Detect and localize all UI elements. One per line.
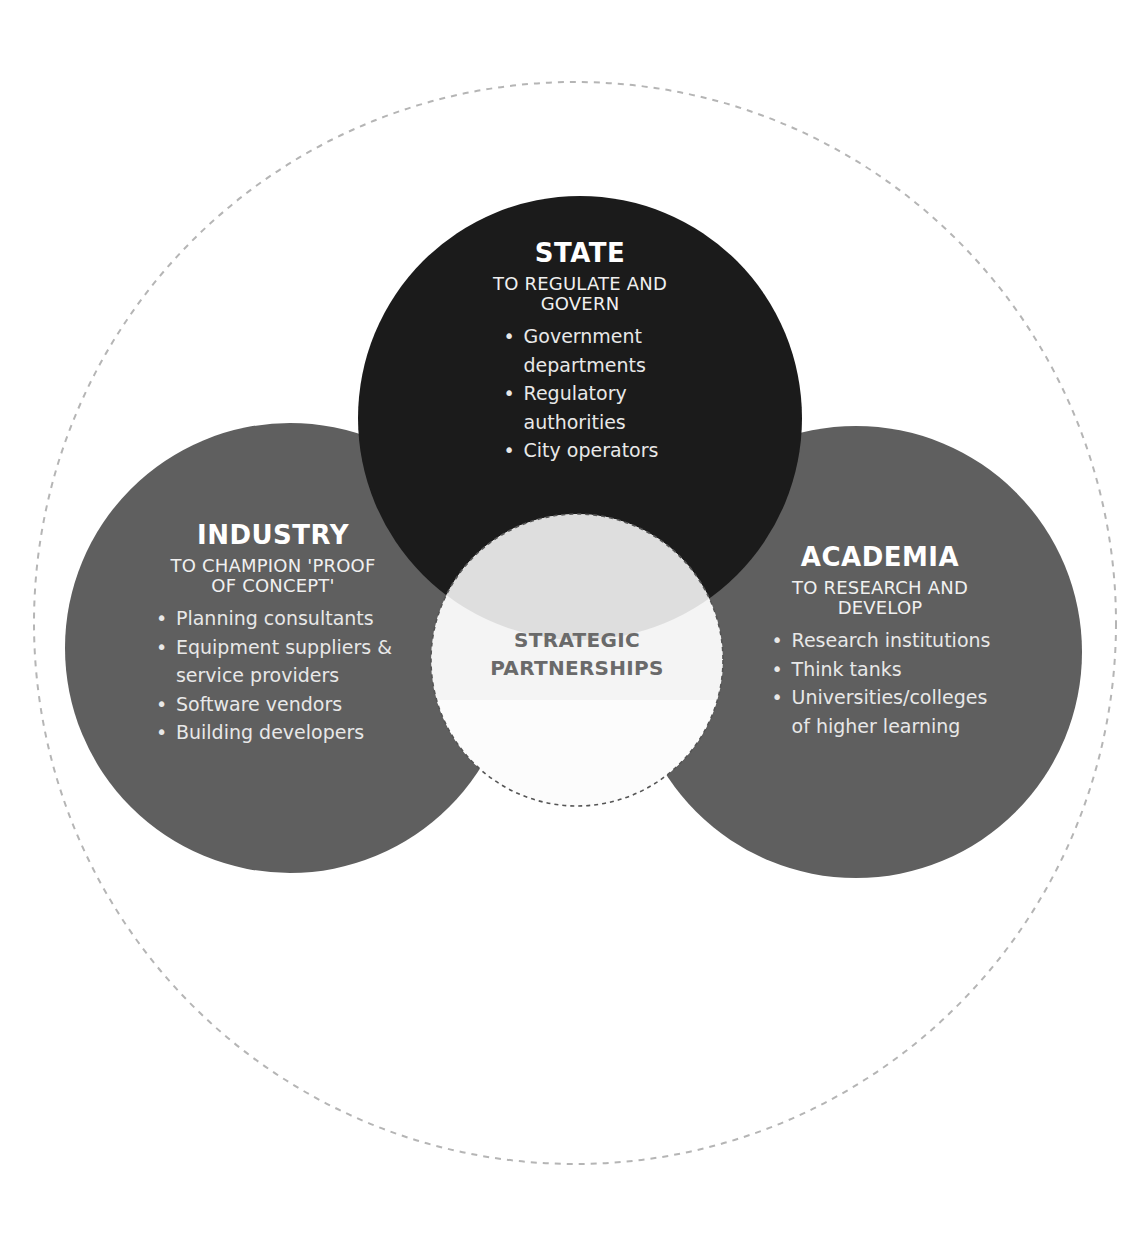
list-item: Research institutions — [770, 626, 991, 655]
industry-block: INDUSTRY TO CHAMPION 'PROOF OF CONCEPT' … — [118, 520, 428, 747]
academia-items-list: Research institutions Think tanks Univer… — [770, 626, 991, 740]
list-item: Planning consultants — [154, 604, 392, 633]
academia-subtitle: TO RESEARCH AND DEVELOP — [730, 578, 1030, 618]
list-item: Regulatoryauthorities — [502, 379, 659, 436]
center-label: STRATEGIC PARTNERSHIPS — [447, 626, 707, 682]
academia-title: ACADEMIA — [730, 542, 1030, 572]
list-item: Governmentdepartments — [502, 322, 659, 379]
academia-block: ACADEMIA TO RESEARCH AND DEVELOP Researc… — [730, 542, 1030, 740]
academia-subtitle-line2: DEVELOP — [730, 598, 1030, 618]
state-block: STATE TO REGULATE AND GOVERN Governmentd… — [430, 238, 730, 465]
center-label-line1: STRATEGIC — [447, 626, 707, 654]
academia-subtitle-line1: TO RESEARCH AND — [730, 578, 1030, 598]
industry-subtitle-line2: OF CONCEPT' — [118, 576, 428, 596]
state-subtitle-line1: TO REGULATE AND — [430, 274, 730, 294]
industry-items-list: Planning consultants Equipment suppliers… — [154, 604, 392, 747]
list-item: Think tanks — [770, 655, 991, 684]
center-label-line2: PARTNERSHIPS — [447, 654, 707, 682]
state-subtitle-line2: GOVERN — [430, 294, 730, 314]
list-item: Building developers — [154, 718, 392, 747]
list-item: City operators — [502, 436, 659, 465]
state-items-list: Governmentdepartments Regulatoryauthorit… — [502, 322, 659, 465]
list-item: Equipment suppliers &service providers — [154, 633, 392, 690]
industry-title: INDUSTRY — [118, 520, 428, 550]
strategic-partnerships-diagram: STATE TO REGULATE AND GOVERN Governmentd… — [0, 0, 1140, 1236]
industry-subtitle-line1: TO CHAMPION 'PROOF — [118, 556, 428, 576]
state-title: STATE — [430, 238, 730, 268]
list-item: Software vendors — [154, 690, 392, 719]
state-subtitle: TO REGULATE AND GOVERN — [430, 274, 730, 314]
industry-subtitle: TO CHAMPION 'PROOF OF CONCEPT' — [118, 556, 428, 596]
list-item: Universities/collegesof higher learning — [770, 683, 991, 740]
